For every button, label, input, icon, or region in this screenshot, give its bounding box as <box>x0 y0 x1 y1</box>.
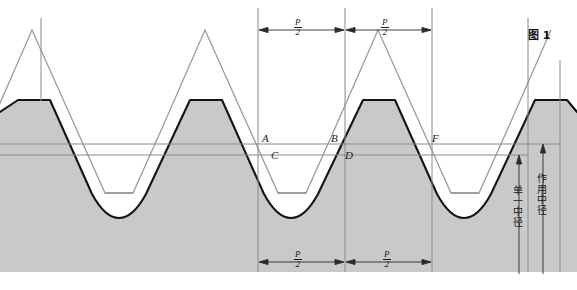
bottom-left-half-pitch-label: P 2 <box>294 250 302 269</box>
material-body <box>0 100 577 272</box>
point-label-c: C <box>271 150 278 161</box>
top-arrow-left-start <box>259 27 268 32</box>
top-arrow-left-end <box>335 27 344 32</box>
point-label-a: A <box>262 133 269 144</box>
fraction-denominator: 2 <box>294 260 302 269</box>
material-fill-shape <box>0 100 577 272</box>
functional-pitch-diameter-label: 作用中径 <box>536 174 548 216</box>
thread-profile-figure: A B F C D P 2 P 2 P 2 P 2 单一中径 作用中径 图 1 <box>0 0 577 290</box>
point-label-d: D <box>345 150 353 161</box>
single-pitch-diameter-label: 单一中径 <box>512 186 524 228</box>
bottom-right-half-pitch-label: P 2 <box>383 250 391 269</box>
top-right-half-pitch-label: P 2 <box>381 18 389 37</box>
top-arrow-right-start <box>346 27 355 32</box>
point-label-b: B <box>331 133 338 144</box>
ideal-thread-profile <box>0 30 551 193</box>
ideal-profile-path <box>0 30 551 193</box>
fraction-denominator: 2 <box>381 28 389 37</box>
top-left-half-pitch-label: P 2 <box>294 18 302 37</box>
figure-caption: 图 1 <box>528 26 550 42</box>
fraction-denominator: 2 <box>383 260 391 269</box>
thread-profile-drawing <box>0 0 577 290</box>
fraction-denominator: 2 <box>294 28 302 37</box>
top-arrow-right-end <box>422 27 431 32</box>
point-label-f: F <box>432 133 439 144</box>
